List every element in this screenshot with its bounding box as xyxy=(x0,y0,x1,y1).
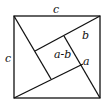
line-3 xyxy=(64,36,100,98)
label-center-a-minus-b: a-b xyxy=(54,48,71,61)
pythagoras-diagram: c c a-b b a xyxy=(0,0,107,106)
line-1 xyxy=(14,16,51,79)
line-2 xyxy=(35,16,100,51)
line-4 xyxy=(14,64,83,98)
label-left-c: c xyxy=(5,52,11,65)
label-top-c: c xyxy=(53,3,59,16)
label-b: b xyxy=(82,29,89,42)
label-a: a xyxy=(83,55,90,68)
